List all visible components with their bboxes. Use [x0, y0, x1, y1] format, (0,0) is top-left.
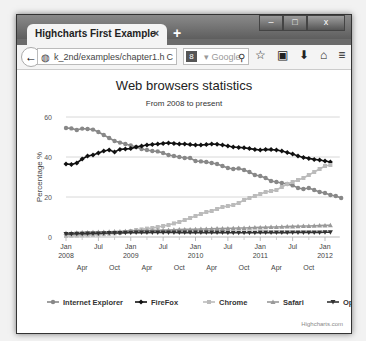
refresh-icon[interactable]: C: [167, 49, 174, 65]
x-tick-label: Apr: [206, 264, 218, 272]
new-tab-button[interactable]: +: [173, 25, 181, 41]
bookmark-star-icon[interactable]: ☆: [255, 48, 266, 62]
x-tick-label: Oct: [303, 264, 314, 271]
navigation-toolbar: ← ◍ k_2nd/examples/chapter1.h C 8 ▾ Goog…: [17, 45, 351, 70]
window-controls: – □ x: [259, 15, 345, 31]
tab-title: Highcharts First Example: [35, 28, 156, 39]
x-tick-label: Oct: [174, 264, 185, 271]
url-text: k_2nd/examples/chapter1.h: [54, 52, 165, 62]
legend-label: Opera: [343, 298, 351, 307]
toolbar-icons: ☆ ▣ ⬇ ⌂ ≡: [255, 48, 345, 62]
y-axis-title: Percentage %: [35, 152, 44, 202]
close-button[interactable]: x: [307, 15, 345, 31]
search-placeholder: ▾ Google: [204, 52, 241, 62]
x-tick-year: 2008: [58, 252, 74, 259]
x-tick-year: 2012: [317, 252, 333, 259]
url-bar[interactable]: ◍ k_2nd/examples/chapter1.h C: [37, 48, 177, 65]
chart-credit[interactable]: Highcharts.com: [301, 321, 343, 327]
minimize-button[interactable]: –: [259, 15, 283, 31]
y-tick-label: 0: [48, 234, 52, 241]
globe-icon: ◍: [41, 49, 50, 65]
x-tick-label: Oct: [109, 264, 120, 271]
line-chart: 0204060Percentage %Jan2008JulJan2009JulJ…: [17, 70, 351, 333]
legend-item[interactable]: Safari: [267, 298, 304, 307]
legend-label: Chrome: [219, 298, 247, 307]
x-tick-label: Jan: [190, 243, 201, 250]
x-tick-label: Jan: [255, 243, 266, 250]
x-tick-label: Oct: [239, 264, 250, 271]
legend-item[interactable]: FireFox: [135, 298, 179, 307]
x-tick-year: 2010: [188, 252, 204, 259]
clipboard-icon[interactable]: ▣: [277, 48, 288, 62]
download-icon[interactable]: ⬇: [299, 48, 309, 62]
search-engine-icon[interactable]: 8: [186, 51, 197, 62]
menu-icon[interactable]: ≡: [338, 48, 345, 62]
x-tick-label: Jul: [94, 243, 103, 250]
x-tick-label: Apr: [141, 264, 153, 272]
series-internet-explorer[interactable]: [64, 126, 344, 200]
y-tick-label: 60: [44, 114, 52, 121]
home-icon[interactable]: ⌂: [320, 48, 327, 62]
tab-close-icon[interactable]: ×: [153, 24, 159, 44]
x-tick-label: Apr: [271, 264, 283, 272]
x-tick-year: 2009: [123, 252, 139, 259]
legend-label: Internet Explorer: [63, 298, 123, 307]
search-input[interactable]: 8 ▾ Google ⚲: [183, 48, 249, 65]
y-tick-label: 20: [44, 194, 52, 201]
legend-label: Safari: [283, 298, 304, 307]
x-tick-label: Jan: [319, 243, 330, 250]
x-tick-label: Jan: [60, 243, 71, 250]
x-tick-year: 2011: [253, 252, 268, 259]
legend-item[interactable]: Chrome: [203, 298, 247, 307]
x-tick-label: Apr: [77, 264, 89, 272]
legend-item[interactable]: Internet Explorer: [47, 298, 123, 307]
magnifier-icon[interactable]: ⚲: [238, 49, 245, 66]
y-tick-label: 40: [44, 154, 52, 161]
x-tick-label: Jul: [288, 243, 297, 250]
legend-item[interactable]: Opera: [327, 298, 351, 307]
series-firefox[interactable]: [64, 141, 333, 167]
x-tick-label: Jan: [125, 243, 136, 250]
page-content: Web browsers statistics From 2008 to pre…: [17, 70, 351, 333]
x-tick-label: Jul: [223, 243, 232, 250]
maximize-button[interactable]: □: [283, 15, 307, 31]
x-tick-label: Jul: [159, 243, 168, 250]
browser-window: – □ x Highcharts First Example × + ← ◍ k…: [16, 14, 352, 334]
legend-label: FireFox: [151, 298, 179, 307]
tab-active[interactable]: Highcharts First Example ×: [27, 24, 167, 46]
